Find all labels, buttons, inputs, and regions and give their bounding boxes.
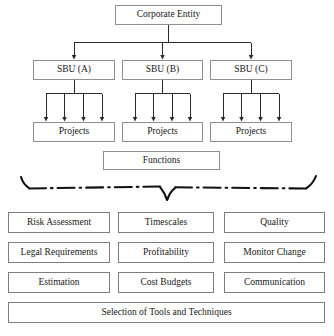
- functions-box[interactable]: Functions: [103, 151, 220, 170]
- topic-label: Cost Budgets: [141, 278, 192, 288]
- projects-a-label: Projects: [59, 127, 90, 137]
- functions-label: Functions: [143, 156, 180, 166]
- projects-c-box[interactable]: Projects: [210, 122, 292, 142]
- topic-box-communication[interactable]: Communication: [224, 272, 325, 293]
- topic-box-risk-assessment[interactable]: Risk Assessment: [8, 212, 110, 233]
- topic-box-timescales[interactable]: Timescales: [118, 212, 214, 233]
- topic-label: Profitability: [143, 248, 189, 258]
- sbu-a-box[interactable]: SBU (A): [33, 60, 115, 80]
- connector-sbu-b-to-projects: [135, 80, 190, 119]
- selection-tools-label: Selection of Tools and Techniques: [101, 308, 231, 318]
- dash-dot-brace-icon: [21, 176, 316, 200]
- projects-c-label: Projects: [236, 127, 267, 137]
- topic-label: Communication: [244, 278, 305, 288]
- sbu-a-label: SBU (A): [57, 65, 91, 75]
- projects-b-box[interactable]: Projects: [122, 122, 203, 142]
- topic-label: Legal Requirements: [21, 248, 98, 258]
- projects-a-box[interactable]: Projects: [33, 122, 115, 142]
- selection-of-tools-and-techniques-box[interactable]: Selection of Tools and Techniques: [8, 302, 325, 323]
- sbu-c-box[interactable]: SBU (C): [210, 60, 292, 80]
- sbu-c-label: SBU (C): [234, 65, 268, 75]
- corporate-entity-box[interactable]: Corporate Entity: [115, 5, 222, 25]
- connector-root-to-bus: [74, 25, 251, 43]
- corporate-entity-label: Corporate Entity: [137, 10, 201, 20]
- connector-sbu-a-to-projects: [46, 80, 102, 119]
- sbu-b-label: SBU (B): [146, 65, 180, 75]
- topic-label: Monitor Change: [243, 248, 306, 258]
- topic-box-cost-budgets[interactable]: Cost Budgets: [118, 272, 214, 293]
- topic-label: Risk Assessment: [27, 218, 91, 228]
- topic-label: Estimation: [38, 278, 79, 288]
- topic-box-monitor-change[interactable]: Monitor Change: [224, 242, 325, 263]
- topic-box-estimation[interactable]: Estimation: [8, 272, 110, 293]
- connector-sbu-c-to-projects: [223, 80, 279, 119]
- topic-box-quality[interactable]: Quality: [224, 212, 325, 233]
- topic-box-profitability[interactable]: Profitability: [118, 242, 214, 263]
- topic-box-legal-requirements[interactable]: Legal Requirements: [8, 242, 110, 263]
- topic-label: Quality: [260, 218, 289, 228]
- sbu-b-box[interactable]: SBU (B): [122, 60, 203, 80]
- projects-b-label: Projects: [147, 127, 178, 137]
- diagram-canvas: Corporate Entity SBU (A) SBU (B) SBU (C)…: [0, 0, 334, 336]
- topic-label: Timescales: [145, 218, 187, 228]
